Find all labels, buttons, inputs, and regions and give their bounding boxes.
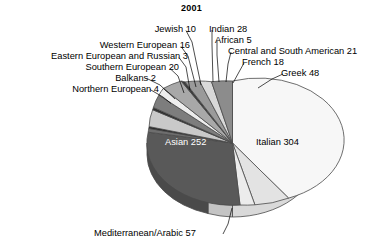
label-african: African 5 xyxy=(215,35,252,46)
label-greek: Greek 48 xyxy=(281,68,319,79)
label-jewish: Jewish 10 xyxy=(0,24,196,35)
label-southern-european: Southern European 20 xyxy=(0,62,179,73)
label-mediterranean-arabic: Mediterranean/Arabic 57 xyxy=(94,228,196,239)
label-balkans: Balkans 2 xyxy=(0,73,156,84)
chart-container: 2001 xyxy=(0,0,383,246)
label-northern-european: Northern European 4 xyxy=(0,84,159,95)
label-italian: Italian 304 xyxy=(256,137,299,148)
leader-african xyxy=(217,41,219,82)
label-eastern-european-russian: Eastern European and Russian 3 xyxy=(0,51,188,62)
label-central-south-american: Central and South American 21 xyxy=(228,46,357,57)
label-western-european: Western European 16 xyxy=(0,40,190,51)
label-indian: Indian 28 xyxy=(209,24,247,35)
leader-indian xyxy=(212,30,213,82)
label-french: French 18 xyxy=(242,57,284,68)
pie-chart-graphic xyxy=(0,0,383,246)
label-asian: Asian 252 xyxy=(165,137,206,148)
